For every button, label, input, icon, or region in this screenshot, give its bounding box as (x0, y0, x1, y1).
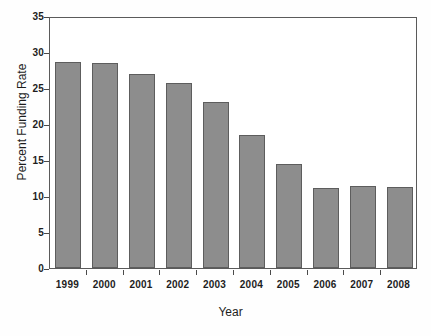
bar (129, 74, 155, 268)
x-tick-mark (86, 270, 87, 275)
x-tick-mark (343, 270, 344, 275)
x-axis-label-text: Year (218, 305, 242, 319)
bar (387, 187, 413, 268)
x-tick-label: 1999 (46, 279, 88, 290)
bar (276, 164, 302, 268)
y-tick-label: 30 (0, 48, 44, 58)
x-tick-label: 2001 (120, 279, 162, 290)
x-tick-label: 2006 (304, 279, 346, 290)
x-axis-label: Year (0, 305, 431, 319)
x-tick-label: 2004 (230, 279, 272, 290)
x-tick-label: 2002 (157, 279, 199, 290)
bar (203, 102, 229, 268)
y-tick-label: 5 (0, 228, 44, 238)
bar (313, 188, 339, 268)
x-tick-mark (233, 270, 234, 275)
x-tick-mark (380, 270, 381, 275)
x-tick-label: 2008 (378, 279, 420, 290)
y-tick-label: 25 (0, 84, 44, 94)
bar (239, 135, 265, 268)
y-tick-label: 0 (0, 264, 44, 274)
bar (92, 63, 118, 268)
bar (350, 186, 376, 268)
x-tick-mark (307, 270, 308, 275)
y-tick-mark (44, 269, 49, 270)
x-tick-mark (196, 270, 197, 275)
plot-area (49, 17, 417, 269)
x-tick-label: 2000 (83, 279, 125, 290)
x-tick-mark (270, 270, 271, 275)
bar (55, 62, 81, 268)
y-tick-label: 10 (0, 192, 44, 202)
x-tick-label: 2005 (267, 279, 309, 290)
x-tick-label: 2003 (194, 279, 236, 290)
x-tick-mark (159, 270, 160, 275)
bar (166, 83, 192, 268)
chart-figure: Percent Funding Rate 05101520253035 1999… (0, 0, 431, 336)
y-tick-label: 20 (0, 120, 44, 130)
x-tick-label: 2007 (341, 279, 383, 290)
y-tick-label: 15 (0, 156, 44, 166)
y-tick-label: 35 (0, 12, 44, 22)
x-tick-mark (123, 270, 124, 275)
